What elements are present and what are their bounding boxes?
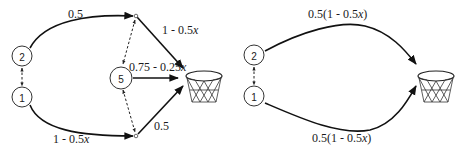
basket-icon	[186, 71, 222, 102]
node-label: 1	[19, 93, 25, 104]
edge-label: 1 - 0.5x	[53, 132, 90, 146]
basket-icon	[418, 71, 454, 102]
edge-label: 1 - 0.5x	[162, 23, 199, 37]
junction-top	[134, 14, 138, 18]
node-2: 2	[12, 46, 32, 66]
diagram-canvas: 2 1 5 0.5 1 - 0.5x 0.75 - 0.25x 1 - 0.5x…	[0, 0, 464, 156]
node-1: 1	[12, 87, 32, 107]
dashed-link-node5-bottom	[123, 90, 135, 132]
edge-node2-to-basket	[265, 24, 416, 64]
edge-label: 0.75 - 0.25x	[129, 60, 187, 74]
node-label: 1	[251, 92, 257, 103]
left-diagram: 2 1 5 0.5 1 - 0.5x 0.75 - 0.25x 1 - 0.5x…	[12, 7, 222, 146]
edge-node1-to-basket	[265, 86, 416, 131]
node-label: 2	[19, 52, 25, 63]
dashed-link-top-node5	[123, 20, 135, 64]
node-2: 2	[244, 45, 264, 65]
junction-bottom	[134, 134, 138, 138]
node-label: 5	[118, 74, 124, 85]
edge-label: 0.5	[68, 7, 83, 21]
edge-label: 0.5(1 - 0.5x)	[312, 131, 371, 145]
edge-label: 0.5	[154, 119, 169, 133]
edge-label: 0.5(1 - 0.5x)	[308, 7, 367, 21]
node-label: 2	[251, 51, 257, 62]
right-diagram: 2 1 0.5(1 - 0.5x) 0.5(1 - 0.5x)	[244, 7, 454, 145]
node-1: 1	[244, 86, 264, 106]
